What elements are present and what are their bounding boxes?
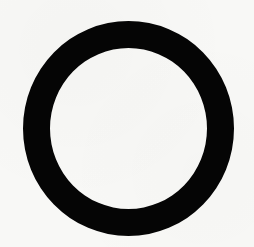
canvas: Thick black ring (circle outline) on off… [0, 0, 254, 247]
circle-ring-icon [23, 21, 234, 236]
figure-description: Thick black ring (circle outline) on off… [0, 0, 1, 1]
